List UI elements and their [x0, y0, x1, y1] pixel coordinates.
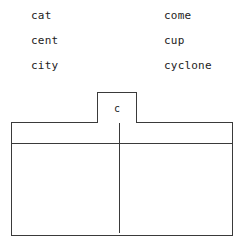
worksheet-canvas: cat cent city come cup cyclone c [0, 0, 252, 251]
word-item: cup [164, 35, 184, 46]
chart-body-cell-right[interactable] [120, 144, 233, 235]
word-item: city [31, 60, 58, 71]
chart-tab-label: c [98, 104, 136, 114]
chart-body-cell-left[interactable] [12, 144, 119, 235]
word-item: cat [31, 10, 51, 21]
word-item: cent [31, 35, 58, 46]
chart-header-cell-left[interactable] [12, 123, 119, 143]
chart-header-cell-right[interactable] [120, 123, 233, 143]
chart-tab-box: c [97, 92, 137, 123]
word-item: cyclone [164, 60, 212, 71]
word-item: come [164, 10, 191, 21]
